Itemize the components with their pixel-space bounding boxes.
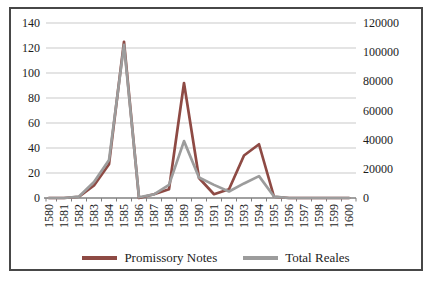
right-axis-tick-label: 60000 bbox=[363, 104, 415, 118]
right-axis-tick-label: 40000 bbox=[363, 133, 415, 147]
x-axis-tick-label: 1583 bbox=[88, 204, 100, 238]
x-axis-tick-label: 1598 bbox=[313, 204, 325, 238]
x-axis-tick-label: 1585 bbox=[118, 204, 130, 238]
left-axis-tick-label: 120 bbox=[6, 41, 40, 55]
x-axis-tick-label: 1592 bbox=[223, 204, 235, 238]
left-axis-tick-label: 20 bbox=[6, 166, 40, 180]
x-axis-tick-label: 1599 bbox=[328, 204, 340, 238]
chart-legend: Promissory NotesTotal Reales bbox=[0, 249, 432, 267]
x-axis-tick-label: 1597 bbox=[298, 204, 310, 238]
right-axis-tick-label: 120000 bbox=[363, 16, 415, 30]
x-axis-tick-label: 1594 bbox=[253, 204, 265, 238]
left-axis-tick-label: 80 bbox=[6, 91, 40, 105]
legend-line-swatch bbox=[243, 256, 278, 260]
x-axis-tick-label: 1589 bbox=[178, 204, 190, 238]
x-axis-tick-label: 1581 bbox=[58, 204, 70, 238]
left-axis-tick-label: 140 bbox=[6, 16, 40, 30]
right-axis-tick-label: 80000 bbox=[363, 74, 415, 88]
x-axis-tick-label: 1580 bbox=[43, 204, 55, 238]
left-axis-tick-label: 100 bbox=[6, 66, 40, 80]
x-axis-tick-label: 1584 bbox=[103, 204, 115, 238]
x-axis-tick-label: 1582 bbox=[73, 204, 85, 238]
legend-label: Total Reales bbox=[285, 250, 349, 266]
x-axis-tick-label: 1596 bbox=[283, 204, 295, 238]
left-axis-tick-label: 40 bbox=[6, 141, 40, 155]
legend-item: Total Reales bbox=[243, 250, 349, 266]
x-axis-tick-label: 1591 bbox=[208, 204, 220, 238]
legend-label: Promissory Notes bbox=[124, 250, 217, 266]
right-axis-tick-label: 0 bbox=[363, 191, 415, 205]
x-axis-tick-label: 1600 bbox=[343, 204, 355, 238]
legend-line-swatch bbox=[82, 256, 117, 260]
x-axis-tick-label: 1590 bbox=[193, 204, 205, 238]
left-axis-tick-label: 0 bbox=[6, 191, 40, 205]
legend-item: Promissory Notes bbox=[82, 250, 217, 266]
left-axis-tick-label: 60 bbox=[6, 116, 40, 130]
x-axis-tick-label: 1588 bbox=[163, 204, 175, 238]
x-axis-tick-label: 1593 bbox=[238, 204, 250, 238]
x-axis-tick-label: 1595 bbox=[268, 204, 280, 238]
x-axis-tick-label: 1586 bbox=[133, 204, 145, 238]
right-axis-tick-label: 100000 bbox=[363, 45, 415, 59]
x-axis-tick-label: 1587 bbox=[148, 204, 160, 238]
series-line-total-reales bbox=[49, 45, 349, 198]
right-axis-tick-label: 20000 bbox=[363, 162, 415, 176]
